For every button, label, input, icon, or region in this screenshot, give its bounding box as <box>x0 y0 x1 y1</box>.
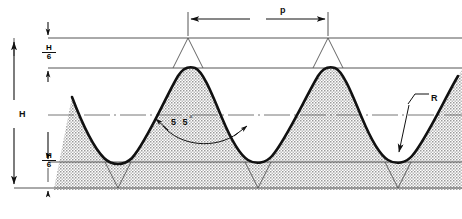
thread-angle-label: 5 5° <box>171 115 192 127</box>
thread-profile-drawing <box>0 0 462 219</box>
thread-profile-outline <box>72 67 458 164</box>
crest-truncation-label: H 6 <box>42 44 56 61</box>
radius-label: R <box>431 94 438 103</box>
degree-symbol-icon: ° <box>190 115 193 122</box>
root-truncation-numerator: H <box>42 152 56 160</box>
pitch-dimension <box>188 12 328 36</box>
root-truncation-label: H 6 <box>42 152 56 169</box>
thread-angle-value: 5 5 <box>171 117 190 127</box>
crest-truncation-denominator: 6 <box>42 52 56 61</box>
height-label: H <box>19 110 26 119</box>
crest-truncation-numerator: H <box>42 44 56 52</box>
thread-form-diagram: p H R 5 5° H 6 H 6 <box>0 0 462 219</box>
pitch-label: p <box>280 6 286 15</box>
root-truncation-denominator: 6 <box>42 160 56 169</box>
